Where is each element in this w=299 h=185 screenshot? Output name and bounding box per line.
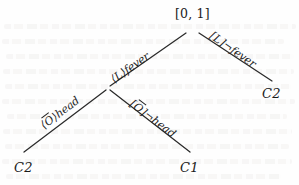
node-leaf-left: C2 xyxy=(14,160,33,175)
node-leaf-middle: C1 xyxy=(180,160,199,175)
tableau-tree-figure: [0, 1] ⟨L⟩fever [L]¬fever ⟨O⟩head [O]¬he… xyxy=(0,0,299,185)
node-leaf-right: C2 xyxy=(262,86,281,101)
tree-edges xyxy=(0,0,299,185)
node-root: [0, 1] xyxy=(175,6,210,21)
